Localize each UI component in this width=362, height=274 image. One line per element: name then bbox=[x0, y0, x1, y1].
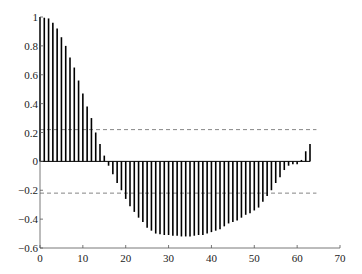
x-tick-label: 50 bbox=[249, 252, 261, 264]
y-tick-label: 0 bbox=[33, 155, 39, 167]
y-tick-label: 0.6 bbox=[24, 69, 38, 81]
y-tick-label: −0.4 bbox=[18, 213, 38, 225]
y-tick-label: 0.2 bbox=[24, 127, 38, 139]
x-tick-label: 10 bbox=[77, 252, 89, 264]
y-tick-label: 1 bbox=[33, 11, 39, 23]
stem-series bbox=[40, 17, 310, 236]
y-tick-label: 0.8 bbox=[24, 40, 38, 52]
y-tick-label: −0.2 bbox=[18, 184, 38, 196]
x-tick-label: 0 bbox=[37, 252, 43, 264]
x-tick-label: 40 bbox=[206, 252, 218, 264]
y-tick-label: −0.6 bbox=[18, 242, 38, 254]
x-tick-label: 20 bbox=[120, 252, 132, 264]
stem-chart: −0.6−0.4−0.200.20.40.60.81 0102030405060… bbox=[0, 0, 362, 274]
x-tick-label: 60 bbox=[292, 252, 304, 264]
x-tick-label: 70 bbox=[335, 252, 347, 264]
x-tick-label: 30 bbox=[163, 252, 175, 264]
y-tick-label: 0.4 bbox=[24, 98, 38, 110]
